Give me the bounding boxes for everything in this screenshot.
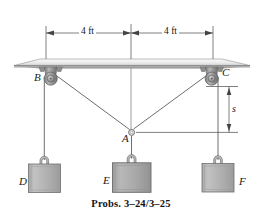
arrow-right-out (205, 31, 213, 36)
sag-arrow-bottom (227, 124, 232, 131)
block-f-body (202, 164, 234, 193)
pulley-c-axle (211, 78, 213, 80)
cable-c-a (134, 76, 207, 129)
point-label-f: F (239, 176, 246, 187)
point-label-e: E (103, 175, 110, 186)
block-e-body (113, 163, 152, 193)
pulley-b (39, 67, 63, 85)
figure-canvas (0, 0, 262, 212)
dimension-line-group (46, 24, 213, 62)
arrow-left-out (46, 31, 54, 36)
sag-arrow-top (227, 88, 232, 96)
block-f (202, 156, 234, 192)
point-label-d: D (19, 176, 27, 187)
dimension-label-right-span: 4 ft (162, 27, 179, 37)
block-d-hook (40, 156, 49, 164)
pulley-b-axle (50, 78, 52, 80)
block-e-hook (127, 155, 136, 164)
arrow-left-in (123, 31, 131, 36)
point-label-b: B (34, 72, 41, 83)
dimension-label-sag: s (232, 104, 236, 114)
ring-a-hole (130, 131, 132, 133)
figure-caption: Probs. 3–24/3–25 (0, 198, 262, 209)
block-d (29, 156, 61, 192)
pulley-c (200, 67, 224, 85)
arrow-right-in (131, 31, 139, 36)
statics-figure: 4 ft 4 ft B C A D E F s Probs. 3–24/3–25 (0, 0, 262, 212)
point-label-a: A (122, 133, 129, 144)
dimension-label-left-span: 4 ft (79, 27, 96, 37)
block-e (113, 155, 152, 193)
block-d-body (29, 164, 61, 193)
point-label-c: C (222, 67, 229, 78)
cable-b-a (56, 76, 129, 130)
ring-a (129, 129, 135, 135)
sag-dimension-group (136, 87, 238, 133)
